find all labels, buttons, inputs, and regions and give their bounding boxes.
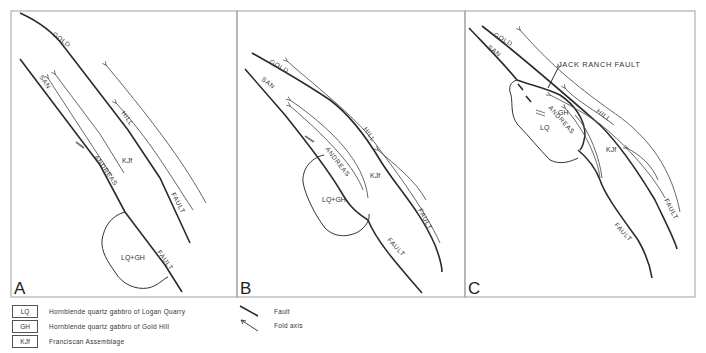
- geologic-diagram: GOLD HILL FAULT SAN ANDREAS FAULT KJf LQ…: [0, 0, 706, 353]
- legend-code-gh: GH: [12, 320, 38, 333]
- fold-axis-arrow-icon: [106, 65, 206, 203]
- panel-a: GOLD HILL FAULT SAN ANDREAS FAULT KJf LQ…: [14, 13, 206, 298]
- san-andreas-fault-line-south: [578, 150, 652, 278]
- gold-label: GOLD: [493, 31, 515, 47]
- legend-row-fold-axis: Fold axis: [238, 318, 303, 332]
- fault-line-icon: [238, 304, 262, 318]
- panel-letter-a: A: [14, 279, 26, 298]
- legend-code-lq: LQ: [12, 305, 38, 318]
- panel-frames: [11, 11, 695, 297]
- gold-label: GOLD: [51, 30, 72, 48]
- hill-label: HILL: [362, 126, 377, 143]
- legend-desc-lq: Hornblende quartz gabbro of Logan Quarry: [49, 308, 185, 315]
- legend-row-gh: GH Hornblende quartz gabbro of Gold Hill: [12, 319, 185, 333]
- unit-kjf-label: KJf: [606, 146, 616, 153]
- panel-letter-b: B: [240, 279, 251, 298]
- fold-axis-arrow-icon: [287, 61, 440, 243]
- unit-kjf-label: KJf: [370, 172, 380, 179]
- unit-legend: LQ Hornblende quartz gabbro of Logan Qua…: [12, 304, 185, 349]
- unit-gh-label: GH: [558, 109, 569, 116]
- legend-row-lq: LQ Hornblende quartz gabbro of Logan Qua…: [12, 304, 185, 318]
- panel-b: GOLD HILL FAULT SAN ANDREAS FAULT KJf LQ…: [240, 53, 442, 298]
- fold-axis-arrow-icon: [238, 318, 262, 332]
- fault-offset-arrow-icon: [536, 110, 545, 116]
- fault-label-lower: FAULT: [613, 221, 633, 243]
- symbol-legend: Fault Fold axis: [238, 304, 303, 332]
- legend-label-fold-axis: Fold axis: [274, 322, 303, 329]
- legend-code-kjf: KJf: [12, 335, 38, 348]
- panel-b-frame: [237, 11, 465, 297]
- hill-label: HILL: [120, 110, 135, 127]
- san-andreas-fault-line: [469, 28, 585, 150]
- gold-label: GOLD: [269, 58, 291, 74]
- fold-axis-arrow-icon: [55, 74, 124, 173]
- fold-axis-arrow-icon: [520, 30, 680, 212]
- unit-lq-label: LQ: [540, 124, 550, 132]
- fault-label-lower: FAULT: [156, 249, 175, 272]
- panel-c: GOLD HILL FAULT SAN ANDREAS FAULT JACK R…: [468, 26, 680, 298]
- panel-letter-c: C: [468, 279, 480, 298]
- legend-row-fault: Fault: [238, 304, 303, 318]
- legend-desc-kjf: Franciscan Assemblage: [49, 338, 124, 345]
- unit-lq-gh-label: LQ+GH: [121, 254, 145, 262]
- fold-axis-arrow-icon: [565, 108, 600, 178]
- san-label: SAN: [38, 74, 52, 90]
- legend-desc-gh: Hornblende quartz gabbro of Gold Hill: [49, 323, 169, 330]
- san-andreas-fault-dashed: [518, 84, 531, 102]
- jack-ranch-fault-label: JACK RANCH FAULT: [558, 60, 640, 69]
- legend-label-fault: Fault: [274, 308, 290, 315]
- fault-label-upper: FAULT: [170, 191, 187, 214]
- unit-lq-gh-label: LQ+GH: [322, 196, 346, 204]
- unit-kjf-label: KJf: [122, 157, 132, 164]
- gold-hill-fault-line: [20, 13, 190, 243]
- san-label: SAN: [260, 75, 276, 90]
- legend-row-kjf: KJf Franciscan Assemblage: [12, 334, 185, 348]
